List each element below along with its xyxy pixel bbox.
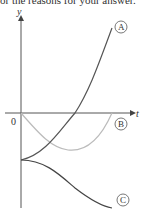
svg-text:C: C — [120, 195, 126, 205]
svg-text:A: A — [118, 22, 125, 32]
y-axis-label: y — [16, 6, 22, 17]
origin-label: 0 — [11, 116, 16, 127]
t-axis-label: t — [136, 108, 139, 119]
curve-a — [21, 28, 112, 160]
label-a: A — [115, 21, 127, 33]
curve-c — [21, 160, 112, 208]
svg-text:B: B — [118, 119, 124, 129]
curve-b — [21, 113, 112, 150]
graph: y t 0 A B C — [0, 0, 143, 212]
label-b: B — [115, 118, 127, 130]
label-c: C — [117, 194, 129, 206]
